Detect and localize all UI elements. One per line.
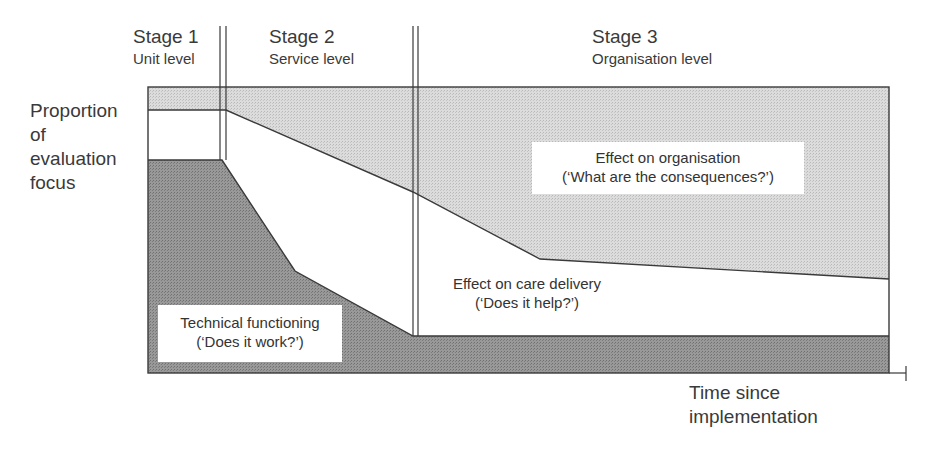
y-axis-label: Proportion of evaluation focus xyxy=(30,99,118,195)
stage-2-subtitle: Service level xyxy=(269,50,354,68)
x-axis-label: Time since implementation xyxy=(689,381,818,429)
x-axis-label-line-2: implementation xyxy=(689,405,818,429)
stage-1-subtitle: Unit level xyxy=(133,50,199,68)
x-axis-label-line-1: Time since xyxy=(689,381,818,405)
stage-3-subtitle: Organisation level xyxy=(592,50,712,68)
organisation-label: Effect on organisation (‘What are the co… xyxy=(532,142,804,194)
stage-3-title: Stage 3 xyxy=(592,27,712,47)
stage-2-header: Stage 2 Service level xyxy=(269,27,354,68)
care-delivery-label: Effect on care delivery (‘Does it help?’… xyxy=(432,274,622,312)
stage-3-header: Stage 3 Organisation level xyxy=(592,27,712,68)
stage-1-title: Stage 1 xyxy=(133,27,199,47)
organisation-label-line-1: Effect on organisation xyxy=(532,148,804,167)
technical-label-line-2: (‘Does it work?’) xyxy=(158,332,342,351)
y-axis-label-line-3: evaluation xyxy=(30,147,118,171)
stage-2-title: Stage 2 xyxy=(269,27,354,47)
care-delivery-label-line-1: Effect on care delivery xyxy=(432,274,622,293)
technical-label-line-1: Technical functioning xyxy=(158,313,342,332)
care-delivery-label-line-2: (‘Does it help?’) xyxy=(432,293,622,312)
technical-label: Technical functioning (‘Does it work?’) xyxy=(158,305,342,362)
y-axis-label-line-1: Proportion xyxy=(30,99,118,123)
organisation-label-line-2: (‘What are the consequences?’) xyxy=(532,167,804,186)
stage-1-header: Stage 1 Unit level xyxy=(133,27,199,68)
y-axis-label-line-2: of xyxy=(30,123,118,147)
y-axis-label-line-4: focus xyxy=(30,171,118,195)
